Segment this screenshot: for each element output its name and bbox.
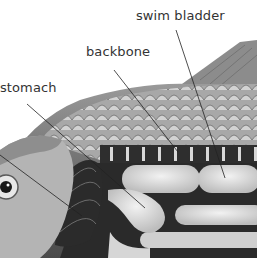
intestine-lower <box>140 232 257 248</box>
swim-bladder-rear <box>198 165 257 193</box>
fish-anatomy-diagram: swim bladder backbone stomach <box>0 0 257 258</box>
label-swim-bladder: swim bladder <box>136 8 225 23</box>
backbone-band <box>100 145 257 163</box>
intestine-upper <box>175 205 257 225</box>
label-backbone: backbone <box>86 44 150 59</box>
label-stomach: stomach <box>0 80 57 95</box>
fish-illustration <box>0 0 257 258</box>
swim-bladder-front <box>122 165 200 193</box>
